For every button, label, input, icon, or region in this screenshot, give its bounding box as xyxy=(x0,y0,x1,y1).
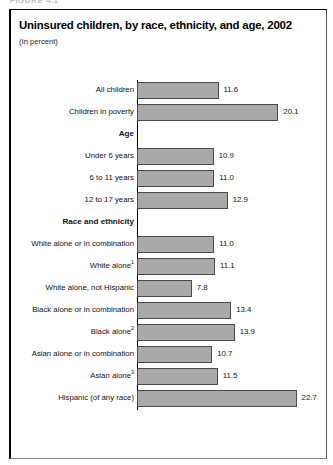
bar-row: Asian alone311.5 xyxy=(0,366,333,388)
bar xyxy=(137,368,218,385)
bar xyxy=(137,82,219,99)
bar-value-label: 22.7 xyxy=(302,393,317,403)
bar-row: 6 to 11 years11.0 xyxy=(0,168,333,190)
bar xyxy=(137,170,214,187)
bar-category-label: Asian alone3 xyxy=(90,371,134,381)
bar-row: Black alone or in combination13.4 xyxy=(0,300,333,322)
group-header-label: Race and ethnicity xyxy=(62,217,134,227)
bar-category-label: White alone, not Hispanic xyxy=(46,283,134,293)
bar xyxy=(137,148,214,165)
bar-group-header-row: Age xyxy=(0,124,333,146)
bar-group-header-row: Race and ethnicity xyxy=(0,212,333,234)
group-header-label: Age xyxy=(119,129,134,139)
figure-root: FIGURE 4.1 Uninsured children, by race, … xyxy=(0,0,333,465)
bar-category-label: Children in poverty xyxy=(69,107,134,117)
bar-category-label: Under 6 years xyxy=(85,151,134,161)
bar-value-label: 10.7 xyxy=(217,349,232,359)
bar-row: White alone111.1 xyxy=(0,256,333,278)
bar-value-label: 11.6 xyxy=(224,85,239,95)
bar-row: All children11.6 xyxy=(0,80,333,102)
bar-value-label: 7.8 xyxy=(197,283,208,293)
bar-category-label: 6 to 11 years xyxy=(90,173,135,183)
chart-subtitle: (In percent) xyxy=(19,37,58,47)
footnote-superscript: 1 xyxy=(131,259,134,265)
bar xyxy=(137,324,235,341)
bar-row: Children in poverty20.1 xyxy=(0,102,333,124)
footnote-superscript: 3 xyxy=(131,369,134,375)
bar xyxy=(137,346,212,363)
bar-category-label: White alone1 xyxy=(90,261,134,271)
bar-row: White alone or in combination11.0 xyxy=(0,234,333,256)
figure-number-fragment: FIGURE 4.1 xyxy=(10,0,59,5)
chart-title: Uninsured children, by race, ethnicity, … xyxy=(19,19,319,32)
bar-value-label: 11.1 xyxy=(220,261,235,271)
bar xyxy=(137,192,228,209)
bar-category-label: Black alone2 xyxy=(91,327,134,337)
bar-value-label: 11.5 xyxy=(223,371,238,381)
bar xyxy=(137,390,297,407)
bar-category-label: Hispanic (of any race) xyxy=(58,393,134,403)
bar xyxy=(137,236,214,253)
bar xyxy=(137,280,192,297)
bar-value-label: 13.4 xyxy=(236,305,251,315)
bar-value-label: 20.1 xyxy=(283,107,298,117)
bar-row: Asian alone or in combination10.7 xyxy=(0,344,333,366)
bar-value-label: 11.0 xyxy=(219,173,234,183)
bar-row: Under 6 years10.9 xyxy=(0,146,333,168)
bar xyxy=(137,302,231,319)
bar-value-label: 11.0 xyxy=(219,239,234,249)
bar-row: Black alone213.9 xyxy=(0,322,333,344)
bar-category-label: Black alone or in combination xyxy=(32,305,134,315)
bar-value-label: 13.9 xyxy=(240,327,255,337)
bar-row: Hispanic (of any race)22.7 xyxy=(0,388,333,410)
bar-value-label: 12.9 xyxy=(233,195,248,205)
bar-row: 12 to 17 years12.9 xyxy=(0,190,333,212)
bar-category-label: White alone or in combination xyxy=(31,239,134,249)
bar-category-label: All children xyxy=(96,85,134,95)
plot-area: All children11.6Children in poverty20.1A… xyxy=(0,52,333,452)
bar-row: White alone, not Hispanic7.8 xyxy=(0,278,333,300)
bar-category-label: 12 to 17 years xyxy=(85,195,134,205)
bar xyxy=(137,104,278,121)
footnote-superscript: 2 xyxy=(131,325,134,331)
bar xyxy=(137,258,215,275)
bar-category-label: Asian alone or in combination xyxy=(32,349,134,359)
bar-value-label: 10.9 xyxy=(219,151,234,161)
